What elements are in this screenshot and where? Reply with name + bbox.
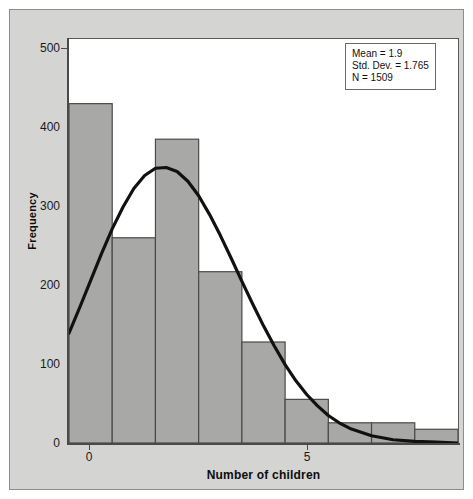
stat-std-dev: Std. Dev. = 1.765	[352, 60, 429, 72]
y-axis-title: Frequency	[26, 161, 38, 281]
histogram-bar	[112, 238, 155, 443]
y-tick-label-100: 100	[16, 358, 60, 370]
y-tick-label-400: 400	[16, 121, 60, 133]
histogram-bar	[199, 272, 242, 443]
figure-panel: 500 400 300 200 100 0	[9, 9, 464, 490]
statistics-legend: Mean = 1.9 Std. Dev. = 1.765 N = 1509	[345, 43, 436, 90]
y-tick-label-0: 0	[16, 437, 60, 449]
y-tick-label-300: 300	[16, 200, 60, 212]
stat-n: N = 1509	[352, 72, 429, 84]
histogram-bar	[242, 342, 285, 443]
histogram-bar	[285, 399, 328, 443]
x-tick-label-0: 0	[69, 450, 109, 464]
bars-group	[69, 104, 458, 443]
histogram-bar	[69, 104, 112, 443]
x-axis-line	[67, 443, 460, 445]
histogram-figure: 500 400 300 200 100 0	[0, 0, 473, 499]
x-axis-title: Number of children	[68, 468, 459, 482]
y-axis-line	[67, 38, 69, 445]
y-tick-label-500: 500	[16, 42, 60, 54]
x-tick-label-5: 5	[287, 450, 327, 464]
y-tick-label-200: 200	[16, 279, 60, 291]
plot-canvas	[69, 39, 458, 443]
plot-area	[68, 38, 459, 444]
stat-mean: Mean = 1.9	[352, 48, 429, 60]
